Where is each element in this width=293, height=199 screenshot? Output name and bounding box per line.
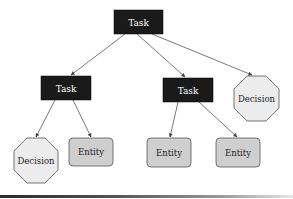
task-left-label: Task <box>56 84 77 94</box>
edge-task-left-to-entity-1 <box>73 100 91 137</box>
node-decision-right[interactable]: Decision <box>234 76 279 121</box>
node-entity-2[interactable]: Entity <box>147 138 191 167</box>
entity-1-label: Entity <box>78 147 104 157</box>
edge-task-left-to-decision-left <box>36 100 55 137</box>
node-task-middle[interactable]: Task <box>163 78 213 102</box>
node-task-root[interactable]: Task <box>114 10 163 34</box>
node-decision-left[interactable]: Decision <box>14 138 58 183</box>
bottom-divider <box>0 195 293 198</box>
edge-root-to-task-middle <box>137 34 185 77</box>
node-entity-3[interactable]: Entity <box>216 138 260 167</box>
edge-task-middle-to-entity-2 <box>170 102 178 137</box>
edge-root-to-task-left <box>71 34 125 75</box>
entity-3-label: Entity <box>225 148 251 158</box>
decision-left-label: Decision <box>18 156 56 166</box>
task-hierarchy-diagram: Task Task Task Decision Decision Entity … <box>0 0 293 199</box>
task-middle-label: Task <box>178 86 199 96</box>
node-entity-1[interactable]: Entity <box>69 138 113 166</box>
node-task-left[interactable]: Task <box>41 76 91 100</box>
task-root-label: Task <box>128 18 149 28</box>
edge-task-middle-to-entity-3 <box>199 102 237 137</box>
edge-root-to-decision-right <box>152 34 252 75</box>
decision-right-label: Decision <box>238 94 276 104</box>
entity-2-label: Entity <box>156 148 182 158</box>
